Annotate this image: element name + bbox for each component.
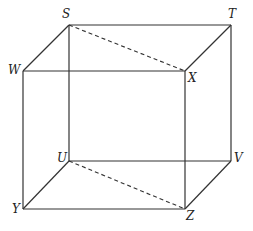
edge-VZ [185,161,231,209]
dashed-diagonal-SX [69,25,185,71]
edge-SW [23,25,69,71]
vertex-label-t: T [228,8,236,20]
edge-TX [185,25,231,71]
edge-UY [23,161,69,209]
vertex-label-v: V [234,152,243,164]
cube-diagram: S T W X U V Y Z [0,0,253,231]
vertex-label-x: X [188,72,197,84]
vertex-label-y: Y [12,203,20,215]
cube-drawing [0,0,253,231]
dashed-diagonal-UZ [69,161,185,209]
vertex-label-u: U [57,152,67,164]
vertex-label-z: Z [186,210,194,222]
vertex-label-w: W [8,64,20,76]
vertex-label-s: S [62,8,70,20]
